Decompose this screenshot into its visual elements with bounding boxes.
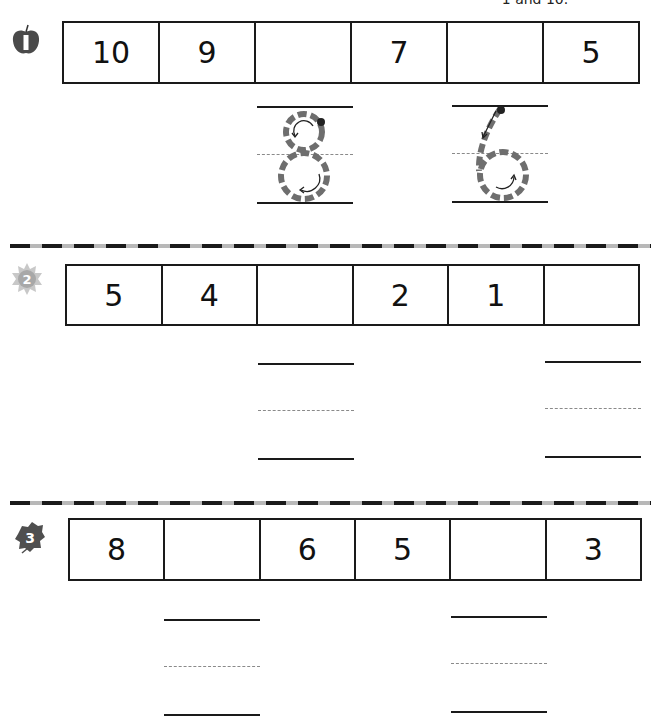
writing-guide-answer[interactable] bbox=[164, 619, 260, 716]
blank-cell[interactable] bbox=[256, 23, 352, 82]
traced-digit-8-icon bbox=[257, 106, 353, 206]
writing-top-line bbox=[451, 616, 547, 618]
number-sequence-row-2: 5 4 2 1 bbox=[65, 264, 640, 326]
number-cell: 5 bbox=[356, 520, 451, 579]
number-sequence-row-3: 8 6 5 3 bbox=[68, 518, 642, 581]
sun-icon: 2 bbox=[10, 262, 44, 296]
writing-guide-answer[interactable] bbox=[451, 616, 547, 716]
traced-digit-6-icon bbox=[452, 105, 548, 205]
writing-mid-line bbox=[164, 666, 260, 667]
number-cell: 4 bbox=[163, 266, 259, 324]
writing-guide-traced-8 bbox=[257, 106, 353, 206]
apple-icon: 1 bbox=[9, 24, 43, 58]
writing-guide-traced-6 bbox=[452, 105, 548, 205]
instruction-text: 1 and 10. bbox=[470, 0, 600, 7]
writing-top-line bbox=[258, 363, 354, 365]
number-cell: 2 bbox=[354, 266, 450, 324]
writing-top-line bbox=[545, 361, 641, 363]
writing-mid-line bbox=[545, 408, 641, 409]
writing-bottom-line bbox=[545, 456, 641, 458]
number-cell: 9 bbox=[160, 23, 256, 82]
writing-top-line bbox=[164, 619, 260, 621]
writing-guide-answer[interactable] bbox=[545, 361, 641, 461]
number-cell: 7 bbox=[352, 23, 448, 82]
writing-bottom-line bbox=[258, 458, 354, 460]
writing-mid-line bbox=[451, 663, 547, 664]
exercise-number: 3 bbox=[25, 530, 35, 546]
writing-guide-answer[interactable] bbox=[258, 363, 354, 463]
number-sequence-row-1: 10 9 7 5 bbox=[62, 21, 640, 84]
writing-mid-line bbox=[258, 410, 354, 411]
section-divider bbox=[10, 244, 651, 248]
number-cell: 8 bbox=[70, 520, 165, 579]
number-cell: 10 bbox=[64, 23, 160, 82]
section-divider bbox=[10, 501, 651, 505]
blank-cell[interactable] bbox=[448, 23, 544, 82]
writing-bottom-line bbox=[451, 711, 547, 713]
blank-cell[interactable] bbox=[165, 520, 260, 579]
number-cell: 6 bbox=[261, 520, 356, 579]
number-cell: 3 bbox=[547, 520, 640, 579]
blank-cell[interactable] bbox=[258, 266, 354, 324]
exercise-number: 2 bbox=[22, 272, 31, 287]
number-cell: 5 bbox=[544, 23, 638, 82]
leaf-icon: 3 bbox=[12, 520, 46, 554]
number-cell: 5 bbox=[67, 266, 163, 324]
blank-cell[interactable] bbox=[451, 520, 546, 579]
number-cell: 1 bbox=[449, 266, 545, 324]
blank-cell[interactable] bbox=[545, 266, 639, 324]
